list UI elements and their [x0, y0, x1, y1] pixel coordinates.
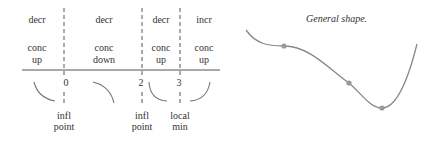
graph-title: General shape.	[306, 13, 367, 24]
region-1-monotonic: decr	[28, 14, 45, 26]
note-3-line2: min	[172, 121, 188, 133]
arc-conc-up-1	[34, 82, 55, 101]
general-shape-curve	[246, 30, 417, 108]
region-2-concavity-dir: down	[93, 54, 115, 66]
arc-conc-down	[93, 82, 114, 103]
region-3-concavity-dir: up	[156, 54, 166, 66]
note-0-line2: point	[54, 121, 75, 133]
arc-conc-up-2	[149, 82, 167, 101]
region-2-monotonic: decr	[95, 14, 112, 26]
tick-2: 2	[138, 77, 145, 89]
point-local-min	[379, 105, 384, 110]
region-2-concavity: conc	[95, 42, 114, 54]
tick-0: 0	[63, 77, 70, 89]
point-inflection-0	[281, 43, 286, 48]
region-4-monotonic: incr	[196, 14, 212, 26]
tick-3: 3	[176, 77, 183, 89]
point-inflection-2	[346, 80, 351, 85]
region-3-concavity: conc	[152, 42, 171, 54]
region-1-concavity-dir: up	[32, 54, 42, 66]
region-4-concavity-dir: up	[199, 54, 209, 66]
arc-conc-up-3	[190, 82, 210, 101]
region-4-concavity: conc	[195, 42, 214, 54]
region-3-monotonic: decr	[152, 14, 169, 26]
region-1-concavity: conc	[28, 42, 47, 54]
note-2-line2: point	[132, 121, 153, 133]
